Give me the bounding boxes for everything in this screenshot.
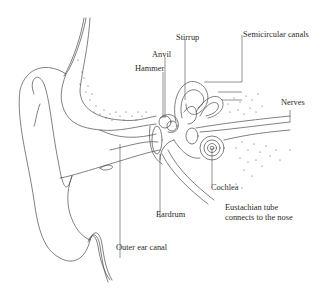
eustachian-tube bbox=[168, 150, 214, 200]
label-nerves: Nerves bbox=[281, 98, 305, 107]
label-anvil: Anvil bbox=[152, 50, 171, 59]
label-eardrum: Eardrum bbox=[156, 210, 185, 219]
pinna-outline bbox=[19, 18, 110, 280]
label-semicircular-canals: Semicircular canals bbox=[243, 30, 309, 39]
semicircular-canals-shape bbox=[175, 81, 208, 122]
label-eustachian-tube-line1: Eustachian tube bbox=[225, 203, 278, 212]
ear-anatomy-diagram: Stirrup Anvil Hammer Semicircular canals… bbox=[0, 0, 325, 293]
label-eustachian-tube-line2: connects to the nose bbox=[225, 213, 293, 222]
label-outer-ear-canal: Outer ear canal bbox=[116, 243, 167, 252]
label-stirrup: Stirrup bbox=[176, 33, 199, 42]
label-cochlea: Cochlea bbox=[211, 183, 238, 192]
label-hammer: Hammer bbox=[135, 64, 164, 73]
